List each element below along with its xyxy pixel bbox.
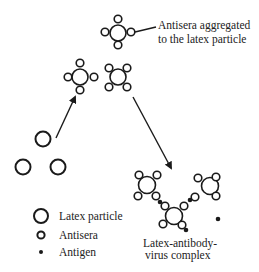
antisera-legend-icon: [37, 231, 44, 238]
arrow-down-icon: [133, 97, 171, 168]
aggregated-particle-square-icon: [105, 64, 131, 91]
arrow-up-icon: [56, 97, 75, 138]
aggregated-label-line1: Antisera aggregated: [158, 19, 251, 32]
legend-label-antisera: Antisera: [59, 229, 98, 241]
latex-agglutination-diagram: Antisera aggregated to the latex particl…: [0, 0, 259, 272]
legend: Latex particle Antisera Antigen: [34, 209, 123, 259]
aggregated-particle-cross-icon: [64, 59, 98, 94]
complex-label-line2: virus complex: [145, 249, 211, 262]
aggregated-label-line2: to the latex particle: [158, 33, 246, 46]
legend-label-latex: Latex particle: [59, 210, 123, 223]
leader-line: [135, 27, 156, 32]
latex-antibody-virus-complex-icon: [134, 171, 220, 232]
aggregated-particle-icon: [101, 15, 135, 49]
latex-particle-legend-icon: [34, 209, 48, 223]
legend-label-antigen: Antigen: [59, 246, 96, 259]
free-latex-particles: [16, 132, 66, 175]
antigen-legend-icon: [39, 250, 43, 254]
